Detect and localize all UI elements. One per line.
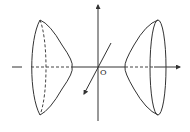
hyperboloid-diagram: O bbox=[0, 0, 190, 132]
origin-label: O bbox=[100, 68, 107, 77]
